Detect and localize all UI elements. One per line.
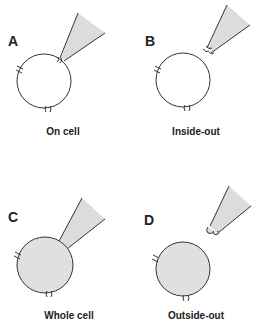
caption-whole-cell: Whole cell bbox=[4, 310, 134, 321]
whole-cell-diagram bbox=[0, 163, 130, 326]
pipette-icon bbox=[210, 186, 251, 233]
caption-outside-out: Outside-out bbox=[131, 310, 261, 321]
pipette-icon bbox=[208, 5, 250, 52]
pipette-icon bbox=[58, 198, 105, 248]
cell-membrane bbox=[156, 53, 210, 107]
panel-whole-cell: C Whole cell bbox=[0, 163, 130, 326]
pipette-icon bbox=[61, 13, 105, 60]
outside-out-diagram bbox=[130, 163, 261, 326]
panel-on-cell: A On cell bbox=[0, 0, 130, 163]
caption-on-cell: On cell bbox=[0, 126, 128, 137]
panel-outside-out: D Outside-out bbox=[130, 163, 260, 326]
inside-out-diagram bbox=[130, 0, 261, 163]
on-cell-diagram bbox=[0, 0, 130, 163]
cell-membrane bbox=[17, 54, 71, 108]
cell-membrane bbox=[156, 242, 210, 296]
panel-inside-out: B Inside-out bbox=[130, 0, 260, 163]
caption-inside-out: Inside-out bbox=[131, 126, 261, 137]
cell-membrane bbox=[17, 237, 73, 293]
